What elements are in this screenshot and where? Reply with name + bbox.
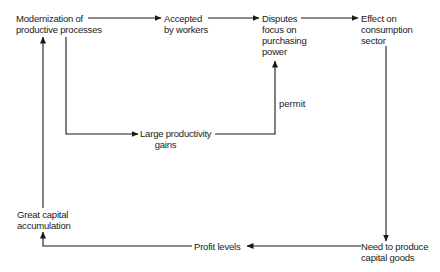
node-productivity: Large productivity gains bbox=[140, 128, 211, 150]
node-need: Need to produce capital goods bbox=[361, 241, 428, 263]
node-disputes: Disputes focus on purchasing power bbox=[262, 13, 306, 57]
node-capital: Great capital accumulation bbox=[17, 209, 71, 231]
edge-productivity-disputes bbox=[215, 61, 275, 134]
edge-label-permit: permit bbox=[279, 98, 305, 109]
edge-profit-capital bbox=[43, 232, 192, 246]
node-modernization: Modernization of productive processes bbox=[16, 13, 102, 35]
node-accepted: Accepted by workers bbox=[164, 13, 208, 35]
node-profit: Profit levels bbox=[194, 241, 241, 252]
node-effect: Effect on consumption sector bbox=[361, 13, 413, 46]
edge-modernization-productivity bbox=[66, 37, 138, 134]
